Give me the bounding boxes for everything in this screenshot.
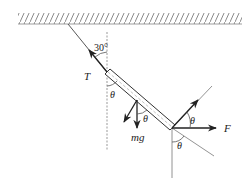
theta-rod-label: θ — [110, 89, 115, 100]
theta-force-top-label: θ — [190, 115, 195, 126]
force-diagram: 30° T θ θ mg θ F θ — [0, 0, 242, 183]
angle-30-label: 30° — [94, 42, 108, 53]
theta-force-bottom-label: θ — [177, 140, 182, 151]
weight-component-arrow — [124, 100, 137, 122]
ceiling — [18, 13, 242, 24]
force-label: F — [223, 122, 231, 134]
rod — [105, 69, 175, 130]
tension-label: T — [84, 70, 91, 82]
weight-label: mg — [131, 131, 145, 143]
ceiling-hatch — [18, 13, 242, 24]
theta-weight-label: θ — [143, 113, 148, 124]
tension-arrow — [89, 50, 107, 72]
